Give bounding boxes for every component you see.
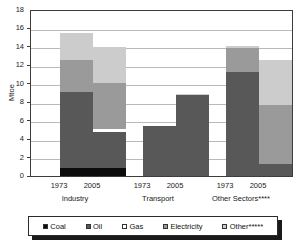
y-tick-label: 10 bbox=[4, 79, 24, 88]
legend-item-other[interactable]: Other***** bbox=[222, 222, 263, 231]
x-group-label-other-sectors: Other Sectors**** bbox=[200, 194, 282, 203]
y-axis-title: Mtoe bbox=[7, 63, 16, 123]
bar-segment-oil bbox=[226, 72, 259, 176]
square-swatch-icon bbox=[222, 224, 227, 229]
bar-segment-coal bbox=[60, 168, 93, 176]
bar-segment-electricity bbox=[93, 83, 126, 128]
y-tick-label: 8 bbox=[4, 97, 24, 106]
square-swatch-icon bbox=[86, 224, 91, 229]
bar-segment-other bbox=[226, 46, 259, 48]
bar-industry-2005[interactable] bbox=[93, 47, 126, 176]
y-tick-label: 14 bbox=[4, 42, 24, 51]
bar-industry-1973[interactable] bbox=[60, 33, 93, 176]
bar-segment-oil bbox=[93, 132, 126, 168]
bar-other-sectors-2005[interactable] bbox=[259, 60, 292, 176]
bar-segment-oil bbox=[60, 92, 93, 168]
legend-item-gas[interactable]: Gas bbox=[122, 222, 143, 231]
bar-segment-coal bbox=[93, 168, 126, 176]
x-tick-label-transport-1973: 1973 bbox=[125, 181, 159, 190]
bar-segment-oil bbox=[143, 126, 176, 176]
y-tick-label: 2 bbox=[4, 153, 24, 162]
bar-segment-electricity bbox=[60, 60, 93, 92]
x-tick-label-industry-2005: 2005 bbox=[75, 181, 109, 190]
x-tick-label-industry-1973: 1973 bbox=[42, 181, 76, 190]
bar-other-sectors-1973[interactable] bbox=[226, 46, 259, 176]
legend-label-gas: Gas bbox=[129, 222, 143, 231]
bar-segment-oil bbox=[176, 95, 209, 176]
bar-segment-other bbox=[60, 33, 93, 60]
y-tick-label: 0 bbox=[4, 171, 24, 180]
square-swatch-icon bbox=[43, 224, 48, 229]
bar-segment-electricity bbox=[259, 105, 292, 164]
x-tick-label-other-sectors-1973: 1973 bbox=[208, 181, 242, 190]
bar-transport-1973[interactable] bbox=[143, 126, 176, 176]
x-group-label-industry: Industry bbox=[42, 194, 108, 203]
x-tick-label-other-sectors-2005: 2005 bbox=[241, 181, 275, 190]
bar-segment-gas bbox=[93, 129, 126, 132]
legend-label-coal: Coal bbox=[50, 222, 65, 231]
bar-segment-electricity bbox=[226, 48, 259, 72]
y-tick-label: 4 bbox=[4, 134, 24, 143]
y-tick-label: 6 bbox=[4, 116, 24, 125]
legend-label-electricity: Electricity bbox=[170, 222, 202, 231]
y-tick-label: 16 bbox=[4, 23, 24, 32]
bar-transport-2005[interactable] bbox=[176, 94, 209, 176]
gridline bbox=[31, 30, 292, 31]
legend-label-other: Other***** bbox=[230, 222, 263, 231]
plot-area bbox=[30, 10, 293, 177]
legend-item-oil[interactable]: Oil bbox=[86, 222, 103, 231]
square-swatch-icon bbox=[122, 224, 127, 229]
x-tick-label-transport-2005: 2005 bbox=[158, 181, 192, 190]
legend-item-coal[interactable]: Coal bbox=[43, 222, 66, 231]
legend: Coal Oil Gas Electricity Other***** bbox=[28, 216, 278, 236]
legend-item-electricity[interactable]: Electricity bbox=[163, 222, 203, 231]
y-tick-label: 18 bbox=[4, 5, 24, 14]
bar-segment-other bbox=[259, 60, 292, 105]
square-swatch-icon bbox=[163, 224, 168, 229]
y-tick-label: 12 bbox=[4, 60, 24, 69]
x-group-label-transport: Transport bbox=[125, 194, 191, 203]
bar-segment-oil bbox=[259, 164, 292, 176]
stacked-bar-chart: Mtoe 18 16 14 12 10 8 6 4 2 0 bbox=[0, 0, 298, 251]
bar-segment-other bbox=[93, 47, 126, 83]
bar-segment-other bbox=[176, 94, 209, 95]
legend-label-oil: Oil bbox=[93, 222, 102, 231]
